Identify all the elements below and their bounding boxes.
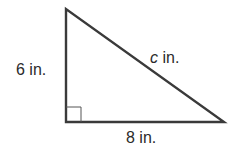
- hypotenuse-variable: c: [150, 49, 158, 66]
- right-triangle: [66, 9, 224, 122]
- hypotenuse-label: c in.: [150, 50, 179, 66]
- vertical-leg-label: 6 in.: [16, 62, 46, 78]
- horizontal-leg-label: 8 in.: [126, 130, 156, 146]
- triangle-figure: [0, 0, 236, 164]
- hypotenuse-unit: in.: [158, 49, 179, 66]
- right-angle-marker: [66, 107, 81, 122]
